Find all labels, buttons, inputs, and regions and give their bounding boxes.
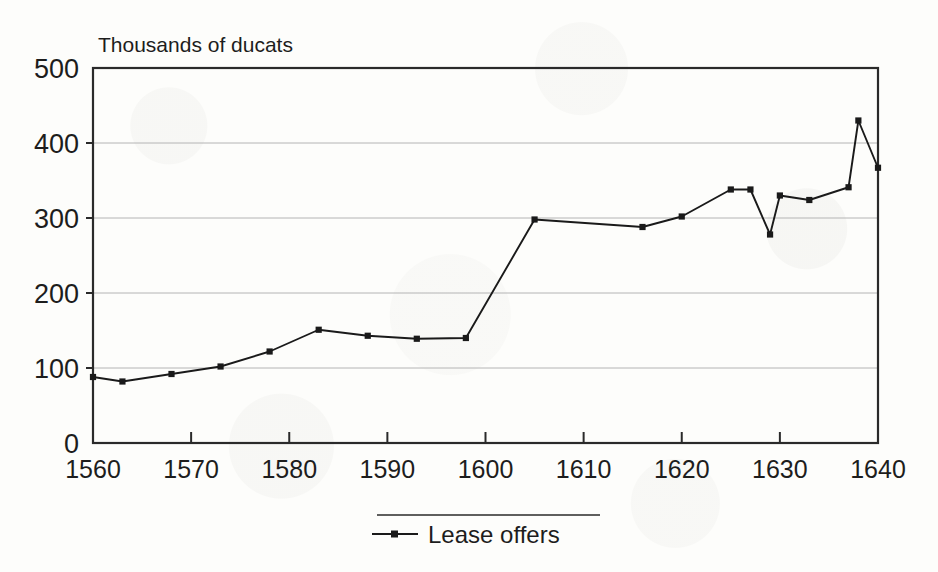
x-tick-label-1620: 1620 <box>654 455 710 483</box>
data-point-marker <box>316 327 322 333</box>
data-point-marker <box>767 231 773 237</box>
data-point-marker <box>414 336 420 342</box>
legend-sample-marker-icon <box>391 531 398 538</box>
data-point-marker <box>217 363 223 369</box>
plot-frame <box>93 68 878 443</box>
data-point-marker <box>855 117 861 123</box>
y-axis-tick-labels: 0100200300400500 <box>34 54 79 459</box>
data-point-marker <box>90 374 96 380</box>
x-tick-label-1610: 1610 <box>556 455 612 483</box>
x-axis-tick-labels: 156015701580159016001610162016301640 <box>65 455 906 483</box>
y-tick-label-200: 200 <box>34 279 79 309</box>
data-point-marker <box>531 216 537 222</box>
x-tick-label-1580: 1580 <box>261 455 317 483</box>
x-tick-label-1640: 1640 <box>850 455 906 483</box>
data-point-marker <box>806 197 812 203</box>
x-axis-ticks <box>191 432 780 443</box>
data-point-marker <box>168 371 174 377</box>
data-point-marker <box>639 224 645 230</box>
data-point-marker <box>845 184 851 190</box>
unit-caption: Thousands of ducats <box>98 33 293 56</box>
legend-item-label: Lease offers <box>428 521 560 548</box>
plot-border <box>93 68 878 443</box>
x-tick-label-1600: 1600 <box>458 455 514 483</box>
data-point-marker <box>679 213 685 219</box>
data-point-marker <box>365 333 371 339</box>
data-point-marker <box>747 186 753 192</box>
data-point-marker <box>267 348 273 354</box>
x-tick-label-1630: 1630 <box>752 455 808 483</box>
x-tick-label-1560: 1560 <box>65 455 121 483</box>
data-point-marker <box>875 165 881 171</box>
legend: Lease offers <box>372 515 600 548</box>
line-chart: 0100200300400500 15601570158015901600161… <box>0 0 938 572</box>
y-tick-label-100: 100 <box>34 354 79 384</box>
series-line-0 <box>93 121 878 382</box>
data-point-marker <box>728 186 734 192</box>
data-point-marker <box>463 335 469 341</box>
y-tick-label-400: 400 <box>34 129 79 159</box>
y-tick-label-300: 300 <box>34 204 79 234</box>
gridlines-group <box>93 143 878 368</box>
x-tick-label-1590: 1590 <box>360 455 416 483</box>
chart-page: 0100200300400500 15601570158015901600161… <box>0 0 938 572</box>
data-point-marker <box>119 378 125 384</box>
data-point-marker <box>777 192 783 198</box>
y-tick-label-500: 500 <box>34 54 79 84</box>
series-lease-offers <box>90 117 881 384</box>
x-tick-label-1570: 1570 <box>163 455 219 483</box>
